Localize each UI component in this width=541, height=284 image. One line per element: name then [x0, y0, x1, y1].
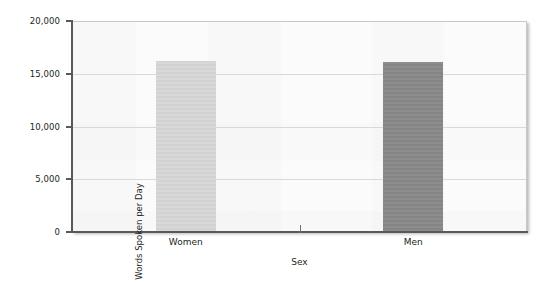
x-tick-label-men: Men [353, 236, 473, 248]
y-axis-line [71, 20, 73, 233]
y-tick-label-0: 0 [0, 227, 60, 237]
x-axis-title: Sex [72, 256, 527, 268]
gridline-15000 [73, 74, 526, 75]
bar-women[interactable] [156, 61, 216, 232]
y-tick-label-20000: 20,000 [0, 16, 60, 26]
bar-men-texture [383, 62, 443, 232]
y-tick-label-5000: 5,000 [0, 174, 60, 184]
y-tick-label-10000: 10,000 [0, 122, 60, 132]
bar-men[interactable] [383, 62, 443, 232]
bar-women-texture [156, 61, 216, 232]
x-axis-category-divider-tick [300, 225, 301, 233]
y-tick-label-15000: 15,000 [0, 69, 60, 79]
